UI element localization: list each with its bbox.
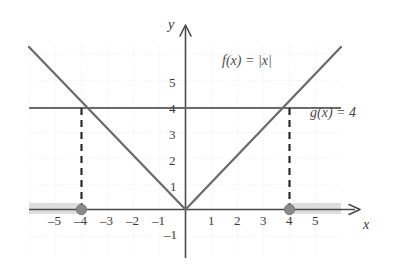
y-tick-label-3: 3: [169, 128, 176, 141]
x-tick-label-neg5: –5: [48, 214, 61, 227]
y-tick-label-2: 2: [169, 154, 176, 167]
x-tick-label-neg2: –2: [126, 214, 139, 227]
x-tick-label-1: 1: [208, 214, 215, 227]
y-tick-label-1: 1: [170, 180, 177, 193]
x-tick-label-neg1: –1: [152, 214, 165, 227]
x-tick-label-neg3: –3: [100, 214, 113, 227]
absolute-value-graph-figure: 5 4 3 2 1 –1 –5 –4 –3 –2 –1 1 2 3 4 5 y …: [0, 0, 413, 279]
g-function-label: g(x) = 4: [310, 106, 356, 120]
x-tick-label-5: 5: [312, 214, 319, 227]
x-tick-label-3: 3: [260, 214, 267, 227]
y-tick-label-neg1: –1: [164, 228, 177, 241]
y-axis-label: y: [168, 18, 174, 32]
f-function-label: f(x) = |x|: [222, 54, 272, 68]
x-tick-label-neg4: –4: [74, 214, 87, 227]
plot-canvas: [0, 0, 413, 279]
x-axis-label: x: [363, 218, 369, 232]
y-tick-label-5: 5: [169, 76, 176, 89]
x-tick-label-4: 4: [286, 214, 293, 227]
x-tick-label-2: 2: [234, 214, 241, 227]
y-tick-label-4: 4: [169, 102, 176, 115]
